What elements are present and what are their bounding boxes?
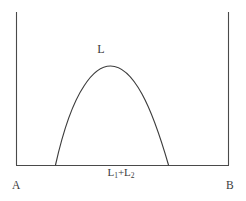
peak-label: L	[0, 43, 224, 55]
right-endpoint-label: B	[226, 180, 234, 192]
concave-curve	[56, 66, 169, 165]
x-axis-label-sub2: 2	[131, 171, 135, 180]
figure-container: L L1+L2 A B	[0, 0, 246, 201]
x-axis-label-sub1: 1	[114, 171, 118, 180]
x-axis-label-part2: +L	[118, 166, 131, 178]
x-axis-label: L1+L2	[0, 167, 244, 178]
left-endpoint-label: A	[12, 180, 20, 192]
